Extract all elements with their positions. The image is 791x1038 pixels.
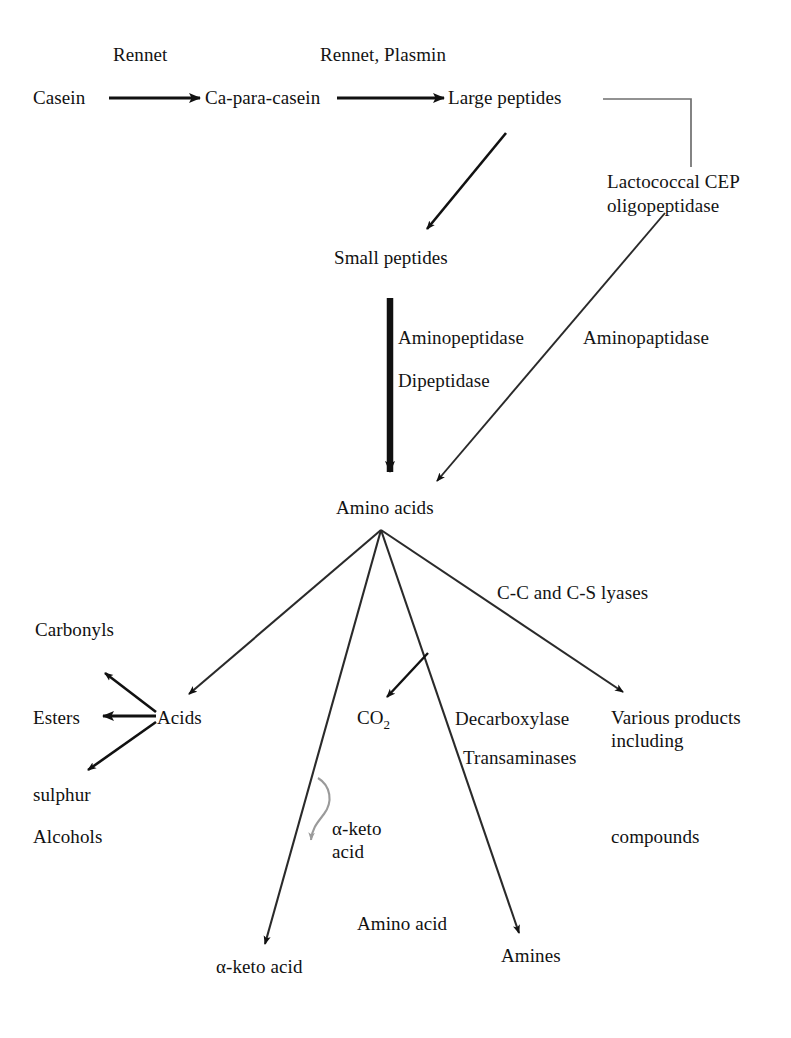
node-sulphur: sulphur bbox=[33, 783, 91, 806]
node-acids: Acids bbox=[157, 706, 202, 729]
enzyme-label-dipeptidase: Dipeptidase bbox=[398, 369, 490, 393]
node-alpha-keto-acid-mid-line2: acid bbox=[332, 840, 364, 863]
node-alcohols: Alcohols bbox=[33, 825, 102, 848]
edge-aminoacids-to-alpha-keto-acid bbox=[265, 530, 381, 944]
enzyme-label-lactococcal-cep-line2: oligopeptidase bbox=[607, 194, 719, 218]
node-co2: CO2 bbox=[357, 706, 390, 736]
node-amines: Amines bbox=[501, 944, 561, 967]
enzyme-label-rennet: Rennet bbox=[113, 43, 167, 67]
node-large-peptides: Large peptides bbox=[448, 86, 561, 109]
enzyme-label-decarboxylase: Decarboxylase bbox=[455, 707, 569, 731]
edge-aminoacids-to-various-products bbox=[381, 530, 623, 692]
node-casein: Casein bbox=[33, 86, 85, 109]
node-co2-subscript: 2 bbox=[384, 717, 391, 732]
node-ca-para-casein: Ca-para-casein bbox=[205, 86, 320, 109]
edge-largepeptides-to-smallpeptides bbox=[427, 133, 506, 229]
enzyme-label-transaminases: Transaminases bbox=[463, 746, 577, 770]
enzyme-label-lactococcal-cep-line1: Lactococcal CEP bbox=[607, 170, 740, 194]
edge-largepeptides-to-lactococcal-cep bbox=[603, 99, 691, 167]
enzyme-label-cc-cs-lyases: C-C and C-S lyases bbox=[497, 581, 648, 605]
node-carbonyls: Carbonyls bbox=[35, 618, 114, 641]
node-alpha-keto-acid-mid-line1: α-keto bbox=[332, 817, 382, 840]
node-esters: Esters bbox=[33, 706, 80, 729]
node-various-products-line2: including bbox=[611, 729, 684, 752]
node-various-products-line1: Various products bbox=[611, 706, 741, 729]
node-amino-acid-bottom: Amino acid bbox=[357, 912, 447, 935]
node-alpha-keto-acid-bottom: α-keto acid bbox=[216, 955, 303, 978]
edge-to-co2 bbox=[387, 653, 428, 697]
enzyme-label-aminopeptidase: Aminopeptidase bbox=[398, 326, 524, 350]
edge-acids-to-carbonyls bbox=[105, 673, 156, 712]
pathway-diagram: Rennet Rennet, Plasmin Lactococcal CEP o… bbox=[0, 0, 791, 1038]
enzyme-label-rennet-plasmin: Rennet, Plasmin bbox=[320, 43, 446, 67]
node-co2-text: CO bbox=[357, 707, 384, 728]
diagram-edges-layer bbox=[0, 0, 791, 1038]
enzyme-label-aminopaptidase: Aminopaptidase bbox=[583, 326, 709, 350]
node-small-peptides: Small peptides bbox=[334, 246, 448, 269]
node-amino-acids: Amino acids bbox=[336, 496, 434, 519]
node-compounds: compounds bbox=[611, 825, 700, 848]
edge-aminoacids-to-acids bbox=[189, 530, 381, 694]
edge-acids-to-sulphur bbox=[88, 722, 156, 770]
curved-reaction-arrow bbox=[311, 778, 330, 840]
